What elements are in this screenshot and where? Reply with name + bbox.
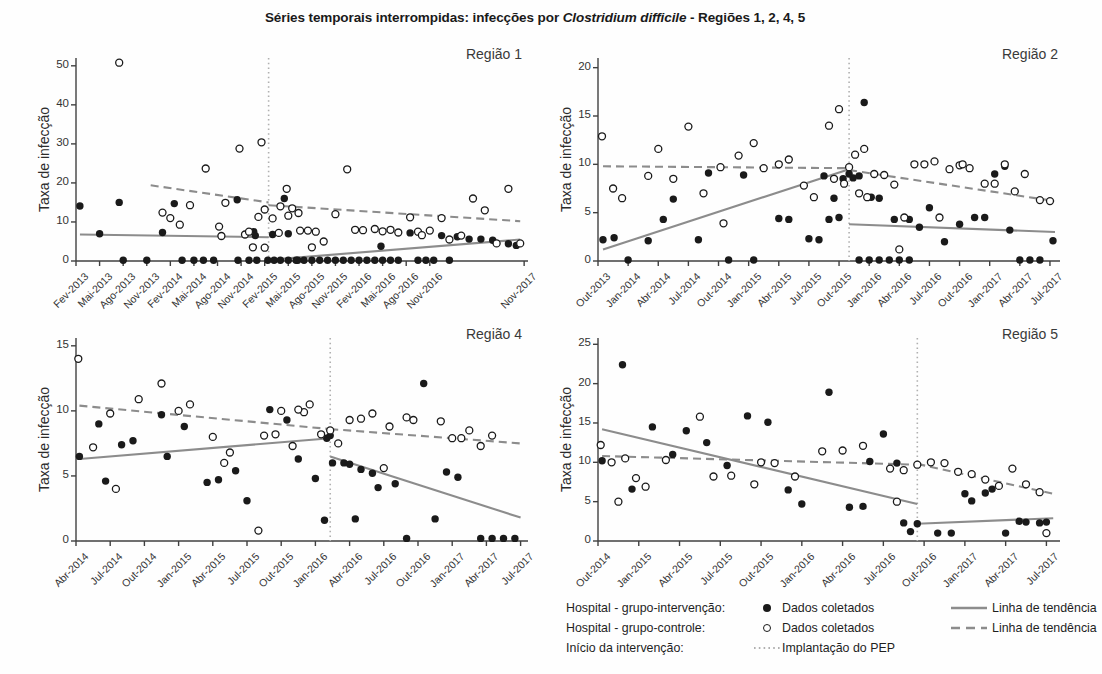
x-tick-label: Out-2016 xyxy=(895,550,939,594)
data-point-control xyxy=(449,435,456,442)
data-point-intervention xyxy=(805,235,812,242)
data-point-control xyxy=(295,406,302,413)
data-point-control xyxy=(896,246,903,253)
data-point-intervention xyxy=(395,257,402,264)
data-point-intervention xyxy=(190,257,197,264)
data-point-intervention xyxy=(95,420,102,427)
data-point-intervention xyxy=(876,195,883,202)
data-point-intervention xyxy=(118,441,125,448)
data-point-control xyxy=(236,145,243,152)
data-point-intervention xyxy=(285,230,292,237)
data-point-control xyxy=(861,145,868,152)
data-point-intervention xyxy=(971,214,978,221)
data-point-control xyxy=(458,232,465,239)
trend-line-control-pre xyxy=(79,406,330,429)
data-point-control xyxy=(505,185,512,192)
data-point-intervention xyxy=(880,430,887,437)
data-point-intervention xyxy=(357,466,364,473)
data-point-intervention xyxy=(377,243,384,250)
data-point-intervention xyxy=(660,216,667,223)
data-point-control xyxy=(991,180,998,187)
data-point-control xyxy=(800,182,807,189)
data-point-intervention xyxy=(649,423,656,430)
data-point-intervention xyxy=(446,257,453,264)
data-point-intervention xyxy=(324,257,331,264)
x-tick-label: Nov-2017 xyxy=(495,270,539,314)
data-point-control xyxy=(387,226,394,233)
data-point-control xyxy=(218,233,225,240)
data-point-control xyxy=(221,459,228,466)
data-point-intervention xyxy=(332,257,339,264)
data-point-intervention xyxy=(830,195,837,202)
data-point-intervention xyxy=(820,172,827,179)
data-point-intervention xyxy=(158,411,165,418)
data-point-intervention xyxy=(363,257,370,264)
data-point-intervention xyxy=(200,257,207,264)
y-tick-label: 5 xyxy=(564,494,591,506)
data-point-control xyxy=(941,460,948,467)
data-point-control xyxy=(346,417,353,424)
data-point-intervention xyxy=(859,503,866,510)
data-point-control xyxy=(771,460,778,467)
data-point-intervention xyxy=(215,476,222,483)
y-tick-label: 10 xyxy=(42,214,69,226)
data-point-control xyxy=(458,435,465,442)
data-point-intervention xyxy=(300,257,307,264)
data-point-control xyxy=(642,483,649,490)
data-point-intervention xyxy=(1006,226,1013,233)
data-point-control xyxy=(881,172,888,179)
data-point-intervention xyxy=(477,235,484,242)
data-point-control xyxy=(696,413,703,420)
plot-area-4 xyxy=(536,324,1064,551)
data-point-control xyxy=(295,210,302,217)
data-point-intervention xyxy=(815,236,822,243)
trend-line-intervention-pre xyxy=(80,234,269,237)
data-point-intervention xyxy=(785,486,792,493)
data-point-control xyxy=(261,432,268,439)
data-point-intervention xyxy=(346,461,353,468)
data-point-intervention xyxy=(1036,519,1043,526)
y-tick-label: 25 xyxy=(564,336,591,348)
data-point-control xyxy=(312,228,319,235)
panel-regiao-5: Região 5Taxa de infecção0510152025Out-20… xyxy=(536,324,1064,574)
data-point-control xyxy=(481,207,488,214)
trend-line-control-pre xyxy=(151,185,269,202)
data-point-control xyxy=(135,396,142,403)
legend-row-intervention: Hospital - grupo-intervenção: Dados cole… xyxy=(566,598,1102,618)
panel-title-4: Região 5 xyxy=(1002,326,1058,342)
data-point-intervention xyxy=(775,215,782,222)
data-point-control xyxy=(246,228,253,235)
legend-trend-label-intervention: Linha de tendência xyxy=(992,598,1102,618)
data-point-control xyxy=(839,447,846,454)
legend-row-control: Hospital - grupo-controle: Dados coletad… xyxy=(566,618,1102,638)
y-tick-label: 40 xyxy=(42,97,69,109)
data-point-intervention xyxy=(281,195,288,202)
panel-title-3: Região 4 xyxy=(466,326,522,342)
data-point-control xyxy=(261,244,268,251)
data-point-intervention xyxy=(785,216,792,223)
data-point-control xyxy=(158,380,165,387)
title-prefix: Séries temporais interrompidas: infecçõe… xyxy=(265,10,563,25)
filled-dot-icon xyxy=(752,604,782,612)
data-point-control xyxy=(921,161,928,168)
data-point-intervention xyxy=(371,257,378,264)
data-point-intervention xyxy=(861,99,868,106)
title-suffix: - Regiões 1, 2, 4, 5 xyxy=(686,10,805,25)
data-point-intervention xyxy=(96,230,103,237)
data-point-control xyxy=(955,468,962,475)
data-point-intervention xyxy=(1002,529,1009,536)
data-point-control xyxy=(112,485,119,492)
data-point-intervention xyxy=(891,216,898,223)
data-point-control xyxy=(187,202,194,209)
data-point-intervention xyxy=(422,257,429,264)
data-point-intervention xyxy=(270,257,277,264)
y-tick-label: 5 xyxy=(564,205,591,217)
data-point-intervention xyxy=(116,199,123,206)
data-point-intervention xyxy=(1049,237,1056,244)
data-point-control xyxy=(710,473,717,480)
data-point-control xyxy=(403,414,410,421)
x-tick-label: Jul-2016 xyxy=(854,550,898,594)
data-point-control xyxy=(981,180,988,187)
data-point-intervention xyxy=(981,214,988,221)
trend-line-intervention-post xyxy=(849,224,1055,232)
